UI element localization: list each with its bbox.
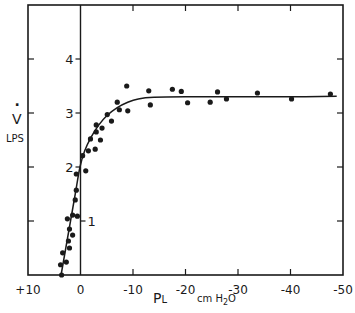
data-point <box>73 197 78 202</box>
data-point <box>66 238 71 243</box>
data-point <box>148 102 153 107</box>
data-point <box>109 119 114 124</box>
fitted-curve-path <box>61 96 337 275</box>
data-point <box>86 148 91 153</box>
data-point <box>64 259 69 264</box>
data-point <box>146 88 151 93</box>
y-tick-label: 2 <box>65 160 73 175</box>
data-point <box>74 188 79 193</box>
x-axis-label: PL <box>153 290 167 306</box>
axis-ticks <box>28 5 343 275</box>
data-point <box>75 214 80 219</box>
x-tick-label: 0 <box>77 283 85 297</box>
x-tick-label: -50 <box>333 283 353 297</box>
data-point <box>125 108 130 113</box>
data-point <box>105 112 110 117</box>
x-axis-unit: cm H2O <box>197 293 236 307</box>
plot-border <box>28 5 343 275</box>
data-point <box>58 262 63 267</box>
data-point <box>328 92 333 97</box>
plot-frame <box>28 5 343 275</box>
data-point <box>65 216 70 221</box>
data-point <box>255 90 260 95</box>
data-points <box>58 83 333 277</box>
y-axis-label: V <box>12 111 22 127</box>
data-point <box>124 83 129 88</box>
data-point <box>208 100 213 105</box>
y-axis-unit: LPS <box>6 133 24 144</box>
data-point <box>67 227 72 232</box>
data-point <box>88 136 93 141</box>
data-point <box>60 250 65 255</box>
y-tick-label: 3 <box>65 106 73 121</box>
data-point <box>70 232 75 237</box>
data-point <box>67 245 72 250</box>
fitted-curve <box>61 96 337 275</box>
data-point <box>115 100 120 105</box>
data-point <box>185 100 190 105</box>
data-point <box>224 96 229 101</box>
x-tick-label: -20 <box>176 283 196 297</box>
data-point <box>117 107 122 112</box>
x-tick-label: -10 <box>123 283 143 297</box>
y-axis-label-dot: · <box>15 97 20 113</box>
data-point <box>59 272 64 277</box>
data-point <box>94 129 99 134</box>
data-point <box>70 212 75 217</box>
data-point <box>83 168 88 173</box>
data-point <box>94 122 99 127</box>
chart-canvas: +100-10-20-30-40-501234 V · LPS PL cm H2… <box>0 0 355 313</box>
x-tick-label: -40 <box>281 283 301 297</box>
data-point <box>99 126 104 131</box>
data-point <box>74 171 79 176</box>
y-tick-label: 1 <box>88 214 96 229</box>
data-point <box>170 87 175 92</box>
data-point <box>93 147 98 152</box>
data-point <box>80 153 85 158</box>
data-point <box>98 137 103 142</box>
data-point <box>289 96 294 101</box>
data-point <box>179 89 184 94</box>
data-point <box>215 89 220 94</box>
y-tick-label: 4 <box>65 52 73 67</box>
x-tick-label: +10 <box>15 283 40 297</box>
